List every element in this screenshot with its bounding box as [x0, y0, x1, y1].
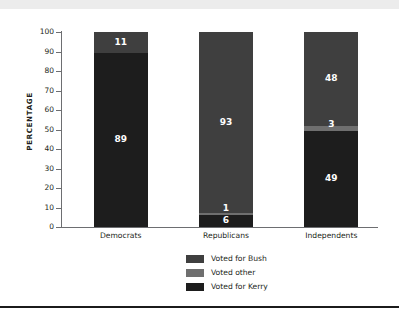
bar-segment-value: 93	[199, 118, 253, 127]
bar-segment-value: 1	[199, 204, 253, 213]
y-axis-tick	[56, 227, 61, 228]
y-axis-tick-label: 90	[14, 48, 54, 56]
legend-label: Voted for Bush	[211, 254, 267, 263]
x-axis-label-democrats: Democrats	[66, 231, 176, 240]
legend-label: Voted for Kerry	[211, 282, 268, 291]
legend-swatch-icon	[186, 283, 204, 291]
legend-item: Voted other	[186, 266, 326, 279]
y-axis-tick-label: 70	[14, 87, 54, 95]
y-axis-tick-label: 40	[14, 145, 54, 153]
y-axis-tick-label: 80	[14, 67, 54, 75]
y-axis-tick	[56, 52, 61, 53]
bar-segment-value: 11	[94, 38, 148, 47]
y-axis-tick-label: 60	[14, 106, 54, 114]
y-axis-tick	[56, 130, 61, 131]
bar-segment-value: 89	[94, 135, 148, 144]
y-axis-tick	[56, 149, 61, 150]
chart-legend: Voted for BushVoted otherVoted for Kerry	[186, 252, 326, 294]
bar-democrats: 1189	[94, 32, 148, 227]
top-decorative-band	[0, 0, 399, 9]
y-axis-tick-label: 30	[14, 165, 54, 173]
y-axis-tick	[56, 110, 61, 111]
y-axis-tick-labels: 1009080706050403020100	[8, 9, 54, 306]
bar-independents: 48349	[304, 32, 358, 227]
y-axis-tick-label: 50	[14, 126, 54, 134]
legend-label: Voted other	[211, 268, 255, 277]
bar-segment-value: 6	[199, 216, 253, 225]
y-axis-tick	[56, 208, 61, 209]
y-axis-tick-label: 10	[14, 204, 54, 212]
y-axis-tick-label: 20	[14, 184, 54, 192]
bar-segment-value: 49	[304, 174, 358, 183]
bottom-rule	[0, 306, 399, 308]
bar-republicans: 9316	[199, 32, 253, 227]
legend-swatch-icon	[186, 269, 204, 277]
y-axis-tick-label: 0	[14, 223, 54, 231]
x-axis-label-independents: Independents	[276, 231, 386, 240]
legend-swatch-icon	[186, 255, 204, 263]
y-axis-tick	[56, 91, 61, 92]
y-axis-tick	[56, 71, 61, 72]
y-axis-tick	[56, 169, 61, 170]
stacked-bar-chart: PERCENTAGE 1009080706050403020100 118993…	[0, 9, 399, 306]
y-axis-tick-label: 100	[14, 28, 54, 36]
bar-segment-value: 3	[304, 120, 358, 129]
x-axis-label-republicans: Republicans	[171, 231, 281, 240]
legend-item: Voted for Kerry	[186, 280, 326, 293]
y-axis-tick	[56, 188, 61, 189]
plot-area: 1189931648349	[62, 32, 378, 227]
x-axis-line	[61, 227, 378, 228]
bar-segment-value: 48	[304, 74, 358, 83]
y-axis-tick	[56, 32, 61, 33]
legend-item: Voted for Bush	[186, 252, 326, 265]
